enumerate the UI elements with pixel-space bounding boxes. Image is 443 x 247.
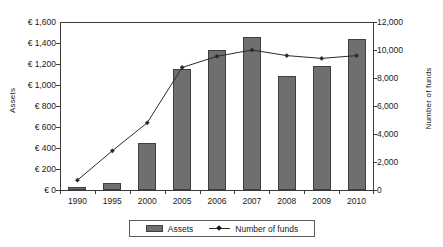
- line-marker: [180, 65, 185, 70]
- legend-item-assets: Assets: [146, 224, 194, 234]
- y-axis-right-tick-label: 4,000: [377, 130, 398, 139]
- y-axis-left-tick-label: € 1,000: [28, 81, 56, 90]
- line-marker: [354, 53, 359, 58]
- x-axis-tickmark: [200, 190, 201, 194]
- chart-legend: Assets Number of funds: [129, 220, 315, 237]
- line-marker: [249, 48, 254, 53]
- x-axis-tickmark: [60, 190, 61, 194]
- y-axis-left-ticks: € 1,600€ 1,400€ 1,200€ 1,000€ 800€ 600€ …: [0, 0, 56, 247]
- line-diamond-swatch-icon: [209, 225, 230, 232]
- line-marker: [284, 53, 289, 58]
- line-marker: [215, 54, 220, 59]
- y-axis-right-tick-label: 12,000: [377, 18, 403, 27]
- y-axis-left-tick-label: € 1,200: [28, 60, 56, 69]
- y-axis-left-tick-label: € 1,400: [28, 39, 56, 48]
- x-axis-tickmark: [130, 190, 131, 194]
- y-axis-right-tick-label: 8,000: [377, 74, 398, 83]
- y-axis-left-tick-label: € 0: [44, 186, 56, 195]
- y-axis-left-tick-label: € 1,600: [28, 18, 56, 27]
- x-axis-tickmark: [234, 190, 235, 194]
- y-axis-left-tick-label: € 400: [35, 144, 56, 153]
- plot-area: [60, 22, 374, 190]
- y-axis-left-tick-label: € 800: [35, 102, 56, 111]
- y-axis-right-tick-label: 10,000: [377, 46, 403, 55]
- legend-label-number-of-funds: Number of funds: [235, 224, 298, 234]
- y-axis-right-tick-label: 2,000: [377, 158, 398, 167]
- legend-item-number-of-funds: Number of funds: [209, 224, 298, 234]
- x-axis-tickmark: [373, 190, 374, 194]
- y-axis-left-tick-label: € 200: [35, 165, 56, 174]
- line-marker: [319, 56, 324, 61]
- legend-label-assets: Assets: [168, 224, 194, 234]
- x-axis-tickmark: [339, 190, 340, 194]
- x-axis-tickmark: [95, 190, 96, 194]
- line-path: [77, 50, 356, 180]
- y-axis-right-tick-label: 0: [377, 186, 382, 195]
- x-axis-tickmark: [269, 190, 270, 194]
- line-series-number-of-funds: [60, 22, 374, 190]
- y-axis-left-tick-label: € 600: [35, 123, 56, 132]
- y-axis-right-ticks: 12,00010,0008,0006,0004,0002,0000: [377, 0, 437, 247]
- x-axis-line: [60, 190, 374, 191]
- y-axis-right-tick-label: 6,000: [377, 102, 398, 111]
- line-markers: [75, 48, 359, 183]
- x-axis-tickmark: [165, 190, 166, 194]
- x-axis-tickmark: [304, 190, 305, 194]
- chart-container: Assets Number of funds € 1,600€ 1,400€ 1…: [0, 0, 443, 247]
- x-axis-tick-label: 2010: [337, 196, 377, 206]
- bar-swatch-icon: [146, 225, 163, 232]
